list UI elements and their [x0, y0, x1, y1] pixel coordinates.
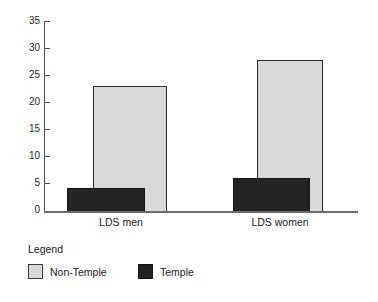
- y-tick-5: [45, 183, 50, 184]
- x-tick-label-lds-men: LDS men: [76, 216, 166, 228]
- legend-label-temple: Temple: [160, 266, 194, 278]
- y-tick-35: [45, 21, 50, 22]
- bar-chart: 35 30 25 20 15 10 5 0 LDS men LDS women …: [0, 0, 378, 302]
- legend-title: Legend: [28, 243, 63, 255]
- y-tick-30: [45, 48, 50, 49]
- bar-lds-women-temple: [233, 178, 310, 212]
- y-tick-label-20: 20: [29, 97, 40, 107]
- bar-lds-men-temple: [67, 188, 145, 212]
- y-tick-15: [45, 129, 50, 130]
- y-tick-label-5: 5: [34, 178, 40, 188]
- y-tick-label-35: 35: [29, 16, 40, 26]
- x-axis-line: [44, 211, 358, 213]
- y-tick-label-0: 0: [34, 205, 40, 215]
- y-tick-label-25: 25: [29, 70, 40, 80]
- legend-label-non-temple: Non-Temple: [50, 266, 107, 278]
- x-tick-label-lds-women: LDS women: [232, 216, 328, 228]
- legend-swatch-temple-icon: [138, 264, 153, 279]
- y-tick-25: [45, 75, 50, 76]
- legend-swatch-non-temple-icon: [28, 264, 43, 279]
- y-tick-20: [45, 102, 50, 103]
- plot-area: 35 30 25 20 15 10 5 0 LDS men LDS women: [0, 0, 378, 302]
- y-tick-10: [45, 156, 50, 157]
- y-tick-label-10: 10: [29, 151, 40, 161]
- y-tick-label-30: 30: [29, 43, 40, 53]
- y-tick-label-15: 15: [29, 124, 40, 134]
